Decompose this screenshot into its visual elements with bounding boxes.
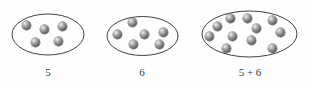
dot — [205, 32, 214, 41]
dot — [243, 14, 252, 23]
group-caption: 5 + 6 — [210, 66, 290, 79]
dot — [228, 32, 237, 41]
dot — [268, 44, 277, 53]
dot-groups-diagram: 565 + 6 — [0, 0, 311, 89]
dot — [252, 24, 261, 33]
group-caption: 6 — [102, 66, 182, 79]
dot — [213, 22, 222, 31]
dot — [268, 16, 277, 25]
dot — [276, 28, 285, 37]
dot — [226, 14, 235, 23]
group-three — [0, 0, 311, 62]
group-three-oval — [0, 0, 311, 62]
group-caption: 5 — [8, 66, 88, 79]
dot — [247, 36, 256, 45]
dot — [222, 44, 231, 53]
